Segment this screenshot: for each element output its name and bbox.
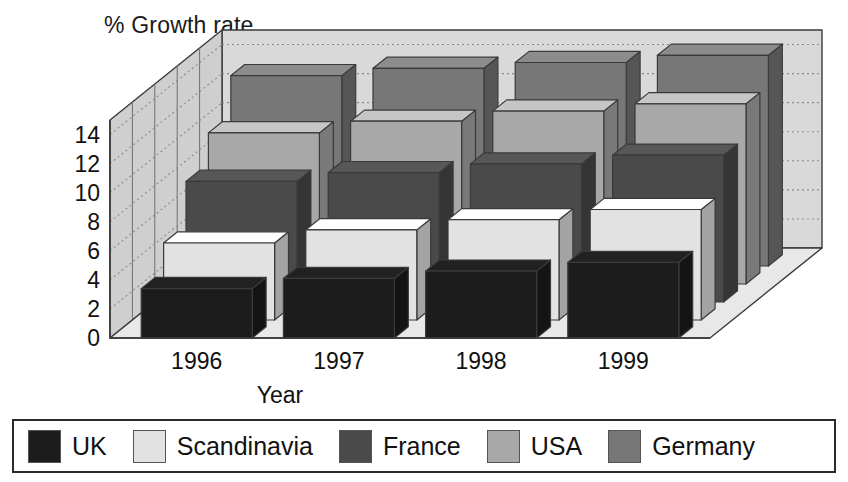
y-tick-12: 12 [54, 153, 100, 176]
x-tick-1998: 1998 [421, 350, 541, 373]
chart-root: % Growth rate 14121086420 19961997199819… [0, 0, 848, 482]
x-axis-title: Year [0, 382, 560, 409]
legend-item-france[interactable]: France [339, 430, 483, 463]
legend-label-scandinavia: Scandinavia [177, 432, 313, 461]
legend-item-usa[interactable]: USA [487, 430, 604, 463]
legend-swatch-france [339, 430, 372, 463]
y-tick-14: 14 [54, 124, 100, 147]
y-tick-10: 10 [54, 182, 100, 205]
bar-uk-1998 [426, 260, 551, 338]
x-tick-1999: 1999 [563, 350, 683, 373]
legend-label-usa: USA [531, 432, 582, 461]
legend: UKScandinaviaFranceUSAGermany [12, 419, 836, 473]
legend-item-germany[interactable]: Germany [608, 430, 777, 463]
legend-item-scandinavia[interactable]: Scandinavia [133, 430, 335, 463]
legend-label-france: France [383, 432, 461, 461]
y-tick-4: 4 [54, 269, 100, 292]
y-tick-6: 6 [54, 240, 100, 263]
bar-chart-3d-plot [0, 0, 848, 400]
x-tick-1997: 1997 [279, 350, 399, 373]
bar-uk-1997 [283, 267, 408, 338]
legend-swatch-germany [608, 430, 641, 463]
legend-swatch-scandinavia [133, 430, 166, 463]
y-tick-8: 8 [54, 211, 100, 234]
legend-label-uk: UK [72, 432, 107, 461]
x-tick-1996: 1996 [137, 350, 257, 373]
legend-swatch-uk [28, 430, 61, 463]
bar-uk-1999 [568, 251, 693, 338]
y-tick-2: 2 [54, 298, 100, 321]
y-tick-0: 0 [54, 327, 100, 350]
bar-uk-1996 [141, 277, 266, 338]
legend-item-uk[interactable]: UK [28, 430, 129, 463]
legend-label-germany: Germany [652, 432, 755, 461]
legend-swatch-usa [487, 430, 520, 463]
